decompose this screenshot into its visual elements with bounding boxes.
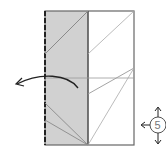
step-number: 5 <box>155 119 161 131</box>
crease-line <box>88 11 134 54</box>
origami-diagram: 5 <box>0 0 166 159</box>
step-indicator: 5 <box>141 107 166 144</box>
crease-line <box>88 68 134 94</box>
crease-line <box>88 68 134 145</box>
